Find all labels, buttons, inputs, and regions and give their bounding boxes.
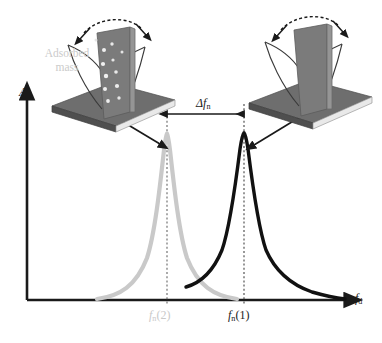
adsorbed-mass-caption-line1: Adsorbed: [31, 47, 103, 61]
y-axis-label: A: [19, 84, 27, 100]
frequency-shift-label-subscript: n: [206, 102, 210, 111]
cantilever-bare: [249, 17, 372, 129]
tick-label-loaded-index: (2): [156, 308, 170, 322]
oscillation-arrow-left-b: [136, 24, 146, 35]
resonance-curve-loaded: [97, 133, 237, 299]
frequency-shift-label-base: Δf: [196, 96, 206, 110]
axes-group: [27, 98, 346, 300]
oscillation-arrow-right-b: [333, 21, 343, 32]
x-axis-label-subscript: d: [358, 297, 362, 306]
frequency-shift-label: Δfn: [196, 96, 210, 111]
resonance-curve-bare: [186, 133, 345, 299]
oscillation-arrow-right-a: [277, 25, 287, 36]
x-axis-label: fd: [355, 291, 362, 306]
cantilever-plate-edge-right: [327, 24, 332, 109]
adsorbed-mass-caption-line2: mass: [31, 61, 103, 75]
oscillation-arrow-left-a: [80, 28, 90, 39]
tick-label-loaded: fn(2): [149, 308, 170, 323]
tick-label-bare-index: (1): [235, 308, 249, 322]
resonance-shift-figure: A fd Δfn fn(2) fn(1) Adsorbed mass: [0, 0, 382, 343]
tick-label-bare: fn(1): [228, 308, 249, 323]
adsorbed-mass-caption: Adsorbed mass: [31, 47, 103, 74]
cantilever-plate-edge-left: [130, 27, 135, 112]
